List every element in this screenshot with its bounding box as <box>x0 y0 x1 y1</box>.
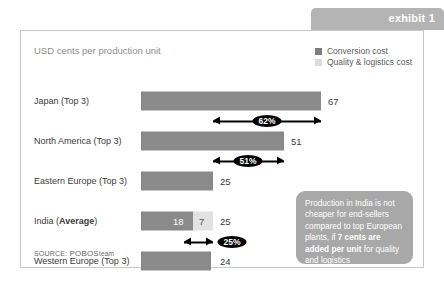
exhibit-tab: exhibit 1 <box>311 8 444 30</box>
callout-line-3: compared to top European <box>305 222 402 231</box>
bar-japan-conversion <box>141 92 321 111</box>
callout-line-5-bold: added per unit <box>305 245 361 254</box>
bar-value-north-america: 51 <box>291 136 302 147</box>
callout-line-1: Production in India is not <box>305 199 395 208</box>
callout-line-6: and logistics <box>305 256 350 265</box>
row-label-north-america: North America (Top 3) <box>34 136 122 146</box>
bar-value-eastern-europe: 25 <box>220 176 231 187</box>
delta-arrow-25 <box>184 238 213 247</box>
source-tail: team <box>99 250 114 257</box>
bar-value-india: 25 <box>220 216 231 227</box>
delta-badge-51: 51% <box>233 155 262 167</box>
bar-segment-value-india-quality: 7 <box>199 216 204 227</box>
bar-western-europe-conversion <box>141 252 211 271</box>
callout-line-4-plain: plants, if <box>305 233 338 242</box>
delta-badge-62: 62% <box>252 115 281 127</box>
bar-eastern-europe-conversion <box>141 172 213 191</box>
bar-india-conversion <box>141 212 193 231</box>
source-note: SOURCE: POBOSteam <box>34 249 114 258</box>
exhibit-tab-label: exhibit 1 <box>389 12 435 24</box>
bar-value-western-europe: 24 <box>220 256 231 267</box>
row-label-japan: Japan (Top 3) <box>34 96 89 106</box>
chart-frame: USD cents per production unit Conversion… <box>20 30 424 268</box>
bar-segment-value-india-conversion: 18 <box>173 216 184 227</box>
delta-badge-25: 25% <box>217 236 246 248</box>
row-label-india: India (Average) <box>34 216 97 226</box>
bar-value-japan: 67 <box>328 96 339 107</box>
bar-north-america-conversion <box>141 132 284 151</box>
source-label: SOURCE: <box>34 250 67 257</box>
callout-box: Production in India is not cheaper for e… <box>296 191 413 264</box>
exhibit-slide: exhibit 1 USD cents per production unit … <box>0 0 444 288</box>
callout-line-2: cheaper for end-sellers <box>305 210 389 219</box>
callout-line-4-bold: 7 cents are <box>338 233 381 242</box>
source-name: POBOS <box>69 249 98 258</box>
callout-line-5-plain: for quality <box>361 245 399 254</box>
row-label-eastern-europe: Eastern Europe (Top 3) <box>34 176 127 186</box>
